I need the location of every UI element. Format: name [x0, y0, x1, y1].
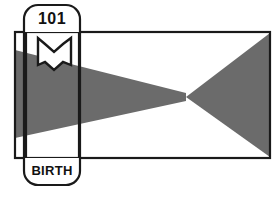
- bowtie-diagram: 101 BIRTH: [0, 0, 277, 200]
- diagram-canvas: 101 BIRTH: [0, 0, 277, 200]
- label-number: 101: [38, 10, 66, 27]
- label-birth: BIRTH: [31, 163, 72, 178]
